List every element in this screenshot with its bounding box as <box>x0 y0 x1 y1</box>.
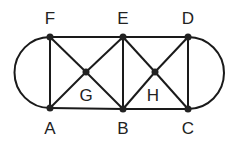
edge-group <box>50 37 188 109</box>
node-H <box>152 69 159 76</box>
node-label-F: F <box>45 9 55 28</box>
node-label-D: D <box>182 9 194 28</box>
node-C <box>185 106 192 113</box>
node-B <box>120 106 127 113</box>
node-F <box>47 34 54 41</box>
node-G <box>83 69 90 76</box>
arc-group <box>15 37 225 109</box>
node-D <box>185 34 192 41</box>
node-A <box>47 105 54 112</box>
node-label-B: B <box>117 119 128 138</box>
label-group: FEDABCGH <box>44 9 194 138</box>
arc-D-C <box>188 37 224 109</box>
edge-G-E <box>86 37 123 72</box>
node-label-E: E <box>117 9 128 28</box>
arc-F-A <box>15 37 51 108</box>
node-label-C: C <box>182 119 194 138</box>
edge-H-D <box>155 37 188 72</box>
edge-F-G <box>50 37 86 72</box>
node-label-A: A <box>44 119 56 138</box>
node-group <box>47 34 192 113</box>
edge-A-B <box>50 108 123 109</box>
node-label-H: H <box>147 86 159 105</box>
graph-diagram: FEDABCGH <box>0 0 234 141</box>
node-E <box>120 34 127 41</box>
node-label-G: G <box>79 86 92 105</box>
edge-H-C <box>155 72 188 109</box>
edge-E-H <box>123 37 155 72</box>
